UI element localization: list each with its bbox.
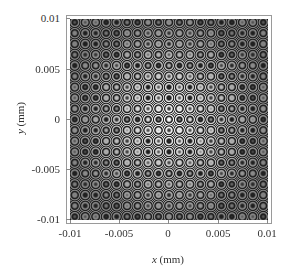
- x-tick-label: -0.01: [45, 227, 95, 239]
- x-tick-mark: [119, 220, 120, 224]
- y-tick-label: -0.005: [0, 163, 60, 175]
- x-tick-mark: [168, 220, 169, 224]
- x-tick-label: 0: [143, 227, 193, 239]
- y-tick-mark: [66, 119, 70, 120]
- x-tick-label: 0.01: [242, 227, 287, 239]
- y-axis-label: y (mm): [14, 102, 26, 134]
- y-tick-label: 0.01: [0, 12, 60, 24]
- y-tick-label: -0.01: [0, 213, 60, 225]
- x-tick-mark: [218, 220, 219, 224]
- x-tick-label: 0.005: [193, 227, 243, 239]
- x-tick-mark: [267, 220, 268, 224]
- y-tick-label: 0: [0, 113, 60, 125]
- y-tick-mark: [66, 69, 70, 70]
- y-tick-mark: [66, 169, 70, 170]
- y-tick-mark: [66, 18, 70, 19]
- fringe-pattern-image: [70, 19, 268, 220]
- y-tick-label: 0.005: [0, 63, 60, 75]
- x-axis-label: x (mm): [152, 253, 184, 265]
- x-tick-mark: [70, 220, 71, 224]
- x-tick-label: -0.005: [94, 227, 144, 239]
